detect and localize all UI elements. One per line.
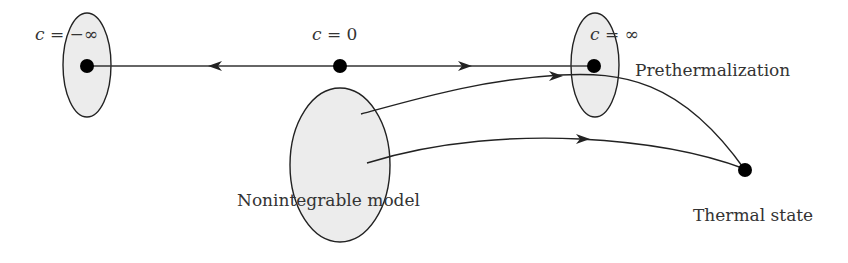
nonintegrable-region-ellipse: [290, 88, 390, 242]
diagram-canvas: c = −∞ c = 0 c = ∞ Prethermalization Non…: [0, 0, 848, 263]
node-c-inf: [587, 59, 601, 73]
label-c-neg-inf: c = −∞: [35, 24, 98, 44]
label-c-inf: c = ∞: [590, 24, 639, 44]
flow-curve-to-prethermal: [361, 74, 745, 170]
node-thermal-state: [738, 163, 752, 177]
label-thermal-state: Thermal state: [693, 205, 813, 225]
label-prethermalization: Prethermalization: [635, 60, 790, 80]
node-c-neg-inf: [80, 59, 94, 73]
label-nonintegrable-model: Nonintegrable model: [237, 190, 420, 210]
label-c-zero: c = 0: [312, 24, 357, 44]
node-c-zero: [333, 59, 347, 73]
flow-curve-to-thermal: [367, 138, 745, 169]
